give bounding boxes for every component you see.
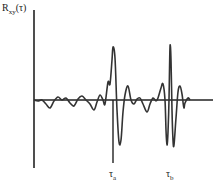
y-axis-label: Rxy(τ) bbox=[2, 2, 26, 16]
tau-b-label: τb bbox=[166, 168, 174, 182]
correlation-chart bbox=[0, 0, 222, 187]
tau-a-sub: a bbox=[113, 174, 116, 182]
y-axis-label-main: R bbox=[2, 2, 9, 13]
y-axis-label-sub: xy bbox=[9, 8, 16, 16]
y-axis-label-arg: (τ) bbox=[16, 2, 27, 13]
correlation-curve-smooth bbox=[34, 45, 190, 147]
tau-a-label: τa bbox=[109, 168, 116, 182]
tau-b-sub: b bbox=[170, 174, 174, 182]
